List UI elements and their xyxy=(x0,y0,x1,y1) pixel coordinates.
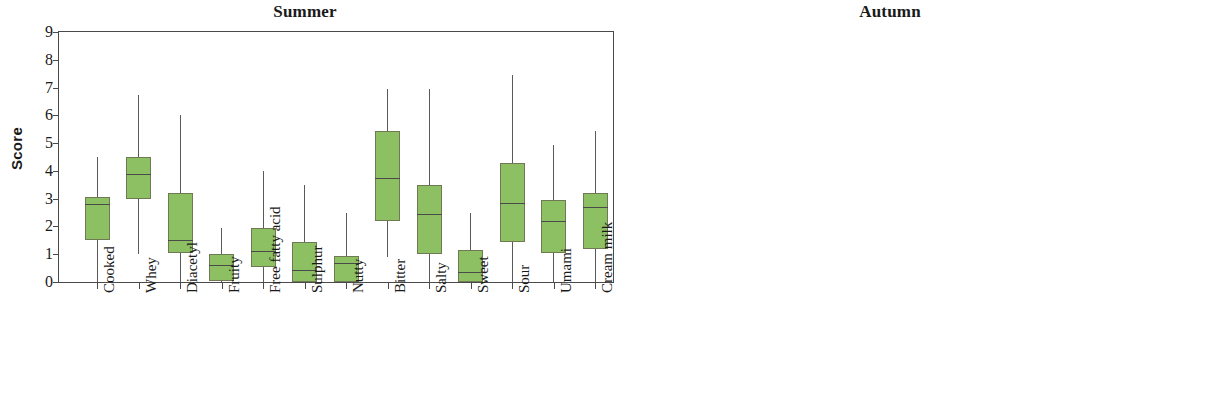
x-tick-label: Cream milk xyxy=(600,222,615,293)
boxplot-box xyxy=(417,32,442,282)
y-tick-label: 7 xyxy=(45,80,53,96)
x-tick-mark xyxy=(222,282,223,289)
box-rect xyxy=(417,185,442,254)
panel-summer: Summer Score 0123456789 CookedWheyDiacet… xyxy=(0,0,620,414)
y-tick-label: 1 xyxy=(45,246,53,262)
y-axis-label-summer: Score xyxy=(8,119,25,179)
x-tick-mark xyxy=(388,282,389,289)
boxplot-box xyxy=(375,32,400,282)
median-line xyxy=(583,207,608,208)
boxplot-box xyxy=(85,32,110,282)
boxplot-box xyxy=(541,32,566,282)
x-tick-label: Sulphur xyxy=(310,245,325,293)
x-tick-label: Sour xyxy=(517,265,532,293)
x-tick-mark xyxy=(180,282,181,289)
panel-title-summer: Summer xyxy=(195,2,415,22)
x-tick-mark xyxy=(97,282,98,289)
median-line xyxy=(541,221,566,222)
y-tick-mark xyxy=(53,282,59,283)
x-tick-mark xyxy=(139,282,140,289)
boxplot-box xyxy=(334,32,359,282)
y-tick-label: 5 xyxy=(45,135,53,151)
y-tick-label: 3 xyxy=(45,191,53,207)
median-line xyxy=(85,204,110,205)
x-tick-mark xyxy=(346,282,347,289)
plot-area-summer: 0123456789 xyxy=(58,31,614,283)
x-tick-mark xyxy=(554,282,555,289)
y-tick-label: 6 xyxy=(45,107,53,123)
x-tick-mark xyxy=(595,282,596,289)
x-tick-label: Umami xyxy=(559,248,574,293)
x-tick-label: Bitter xyxy=(393,259,408,293)
x-tick-label: Diacetyl xyxy=(185,242,200,293)
box-rect xyxy=(126,157,151,199)
x-tick-mark xyxy=(263,282,264,289)
x-tick-label: Sweet xyxy=(476,256,491,293)
x-tick-mark xyxy=(512,282,513,289)
panel-autumn: Autumn Score 0123456789 CookedWheyDiacet… xyxy=(620,0,1214,414)
y-tick-label: 0 xyxy=(45,274,53,290)
box-rect xyxy=(541,200,566,253)
boxplot-figure: Summer Score 0123456789 CookedWheyDiacet… xyxy=(0,0,1214,414)
boxplot-box xyxy=(126,32,151,282)
y-tick-label: 2 xyxy=(45,218,53,234)
x-tick-label: Free fatty acid xyxy=(268,206,283,293)
median-line xyxy=(375,178,400,179)
median-line xyxy=(126,174,151,175)
boxplot-box xyxy=(209,32,234,282)
panel-title-autumn: Autumn xyxy=(780,2,1000,22)
y-tick-label: 8 xyxy=(45,52,53,68)
y-tick-label: 9 xyxy=(45,24,53,40)
box-rect xyxy=(375,131,400,221)
median-line xyxy=(417,214,442,215)
x-tick-label: Whey xyxy=(144,257,159,293)
x-tick-label: Nutty xyxy=(351,259,366,293)
x-tick-mark xyxy=(471,282,472,289)
boxplot-box xyxy=(458,32,483,282)
x-tick-mark xyxy=(429,282,430,289)
median-line xyxy=(168,240,193,241)
x-tick-label: Cooked xyxy=(102,246,117,293)
x-tick-label: Salty xyxy=(434,262,449,293)
plot-clip xyxy=(59,32,613,282)
x-tick-label: Fruity xyxy=(227,256,242,293)
x-tick-mark xyxy=(305,282,306,289)
median-line xyxy=(500,203,525,204)
boxplot-box xyxy=(500,32,525,282)
y-tick-label: 4 xyxy=(45,163,53,179)
